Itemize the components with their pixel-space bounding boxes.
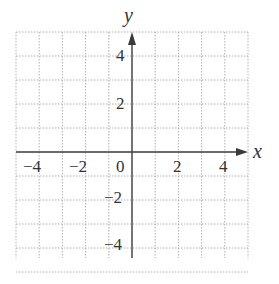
y-axis-label: y — [122, 4, 133, 27]
y-tick-2: 2 — [116, 94, 125, 113]
origin-label: 0 — [116, 157, 125, 176]
y-tick-neg2: −2 — [104, 188, 122, 207]
x-tick-4: 4 — [219, 157, 228, 176]
x-axis-label: x — [252, 140, 262, 162]
x-tick-2: 2 — [173, 157, 182, 176]
x-tick-neg2: −2 — [69, 157, 87, 176]
coordinate-plane: x y −4 −2 0 2 4 4 2 −2 −4 — [0, 0, 279, 284]
y-axis-arrow-icon — [128, 32, 136, 45]
y-tick-neg4: −4 — [104, 235, 123, 254]
x-tick-neg4: −4 — [23, 157, 42, 176]
y-tick-4: 4 — [116, 46, 125, 65]
x-axis-arrow-icon — [236, 148, 248, 156]
